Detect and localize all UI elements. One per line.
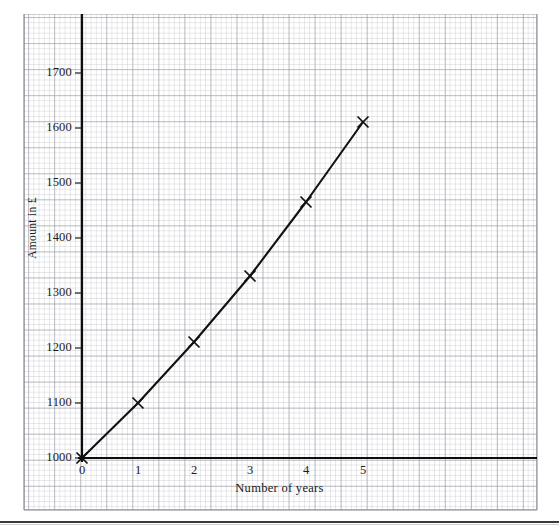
- y-axis-tick-label: 1000: [28, 450, 72, 465]
- graph-figure: 1700 1600 1500 1400 1300 1200 1100 1000 …: [0, 0, 559, 531]
- y-axis-tick-label: 1600: [28, 120, 72, 135]
- x-axis-tick-label: 1: [126, 463, 150, 478]
- data-point-marker: [245, 271, 256, 282]
- y-axis-tick-label: 1700: [28, 65, 72, 80]
- x-axis-tick-label: 0: [70, 463, 94, 478]
- data-point-marker: [358, 117, 369, 128]
- y-axis-tick-label: 1200: [28, 340, 72, 355]
- data-point-marker: [301, 197, 312, 208]
- x-axis-title: Number of years: [0, 481, 559, 496]
- footer-rule-shadow: [0, 524, 559, 525]
- footer-rule: [0, 521, 559, 523]
- data-polyline: [82, 122, 363, 458]
- data-point-marker: [189, 337, 200, 348]
- data-point-marker: [133, 398, 144, 409]
- series-line: [82, 122, 363, 458]
- data-markers: [77, 117, 369, 464]
- plot-area: [0, 0, 559, 531]
- y-axis-tick-label: 1100: [28, 395, 72, 410]
- x-axis-tick-label: 4: [294, 463, 318, 478]
- y-axis-title: Amount in £: [26, 168, 38, 288]
- x-axis-tick-label: 5: [351, 463, 375, 478]
- x-axis-tick-label: 2: [182, 463, 206, 478]
- x-axis-tick-label: 3: [238, 463, 262, 478]
